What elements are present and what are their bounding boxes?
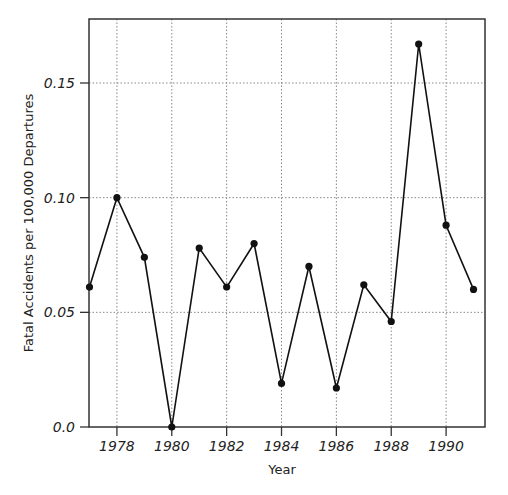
y-tick-label: 0.10 xyxy=(44,190,75,206)
x-tick-label: 1978 xyxy=(99,438,135,454)
data-point xyxy=(86,284,93,291)
x-tick-label: 1988 xyxy=(373,438,409,454)
y-tick-label: 0.15 xyxy=(44,75,75,91)
data-point xyxy=(442,222,449,229)
data-point-markers xyxy=(86,40,477,430)
data-point xyxy=(333,384,340,391)
x-tick-label: 1986 xyxy=(319,438,355,454)
gridlines xyxy=(89,19,485,427)
data-point xyxy=(250,240,257,247)
x-axis-label: Year xyxy=(267,462,296,477)
data-point xyxy=(360,281,367,288)
x-tick-label: 1980 xyxy=(154,438,190,454)
x-tick-label: 1990 xyxy=(428,438,464,454)
line-chart: 0.00.050.100.15 197819801982198419861988… xyxy=(0,0,508,495)
data-point xyxy=(196,245,203,252)
data-point xyxy=(168,423,175,430)
x-axis-ticks: 1978198019821984198619881990 xyxy=(99,427,464,454)
data-point xyxy=(470,286,477,293)
data-point xyxy=(415,40,422,47)
data-point xyxy=(305,263,312,270)
y-axis-label: Fatal Accidents per 100,000 Departures xyxy=(21,94,36,353)
y-tick-label: 0.0 xyxy=(53,419,75,435)
y-tick-label: 0.05 xyxy=(44,304,75,320)
plot-area-frame xyxy=(89,19,485,427)
x-tick-label: 1982 xyxy=(209,438,245,454)
x-tick-label: 1984 xyxy=(264,438,300,454)
data-point xyxy=(223,284,230,291)
y-axis-ticks: 0.00.050.100.15 xyxy=(44,75,89,435)
data-point xyxy=(278,380,285,387)
data-point xyxy=(388,318,395,325)
data-point xyxy=(113,194,120,201)
data-point xyxy=(141,254,148,261)
